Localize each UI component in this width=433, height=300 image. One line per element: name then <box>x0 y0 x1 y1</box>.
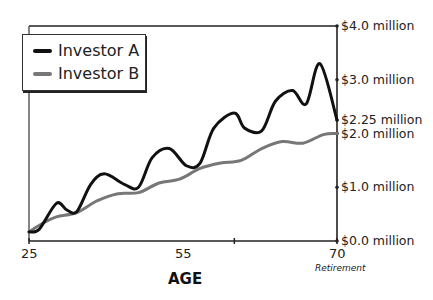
y-label-4m: $4.0 million <box>341 18 414 33</box>
y-label-0m: $0.0 million <box>341 233 414 248</box>
x-sublabel-retirement: Retirement <box>315 263 366 273</box>
y-label-2-25m: $2.25 million <box>341 112 422 127</box>
x-axis-title: AGE <box>168 270 202 288</box>
legend-swatch-investor-b <box>33 72 52 76</box>
legend-item-investor-b: Investor B <box>33 64 139 83</box>
series-line-investor-b <box>29 133 337 231</box>
legend-item-investor-a: Investor A <box>33 41 139 60</box>
legend-swatch-investor-a <box>33 49 52 53</box>
legend-label: Investor A <box>58 41 139 60</box>
legend-label: Investor B <box>58 64 139 83</box>
legend: Investor A Investor B <box>22 34 146 91</box>
x-label-70: 70 <box>329 246 346 261</box>
x-label-25: 25 <box>21 246 38 261</box>
y-label-3m: $3.0 million <box>341 72 414 87</box>
y-label-2m: $2.0 million <box>341 126 414 141</box>
x-label-55: 55 <box>175 246 192 261</box>
y-label-1m: $1.0 million <box>341 179 414 194</box>
